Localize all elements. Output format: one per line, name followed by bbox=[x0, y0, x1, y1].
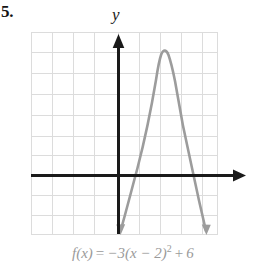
caption-binomial: (x − 2) bbox=[125, 245, 167, 261]
x-axis-arrowhead bbox=[233, 170, 246, 182]
grid-lines bbox=[31, 32, 218, 235]
curve-arrowhead-right bbox=[202, 224, 211, 235]
caption-constant: 6 bbox=[186, 245, 194, 261]
caption-plus: + bbox=[175, 245, 183, 261]
function-caption: f(x) = −3(x − 2)2 + 6 bbox=[72, 240, 257, 262]
caption-coefficient: −3 bbox=[107, 245, 125, 261]
coordinate-axes bbox=[31, 34, 246, 234]
caption-lhs: f(x) bbox=[72, 245, 93, 261]
parabola-curve bbox=[116, 51, 211, 235]
y-axis-arrowhead bbox=[113, 34, 125, 48]
